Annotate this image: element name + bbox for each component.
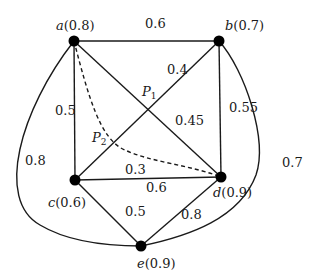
weight-cd-bottom: 0.6 — [146, 180, 167, 195]
node-b — [214, 36, 225, 47]
node-label-e: e(0.9) — [137, 256, 176, 271]
weight-ac: 0.5 — [55, 103, 76, 118]
weight-ae-curve: 0.8 — [25, 153, 46, 168]
edge-a-e-curve — [17, 41, 141, 246]
weighted-graph-diagram: a(0.8) b(0.7) c(0.6) d(0.9) e(0.9) 0.6 0… — [0, 0, 310, 276]
weight-ce: 0.5 — [125, 204, 146, 219]
node-label-c: c(0.6) — [48, 195, 86, 210]
weight-ab: 0.6 — [145, 16, 166, 31]
node-e — [136, 241, 147, 252]
node-d — [216, 172, 227, 183]
node-a — [69, 36, 80, 47]
node-label-a: a(0.8) — [56, 18, 95, 33]
node-label-b: b(0.7) — [225, 18, 264, 33]
weight-ad: 0.45 — [175, 113, 204, 128]
weight-cd-top: 0.3 — [125, 162, 146, 177]
node-label-d: d(0.9) — [213, 185, 252, 200]
point-label-p2: P2 — [91, 130, 106, 147]
edge-b-d — [219, 41, 221, 177]
edge-a-d — [74, 41, 221, 177]
weight-bd: 0.55 — [229, 100, 258, 115]
point-label-p1: P1 — [141, 84, 156, 101]
weight-de: 0.8 — [181, 207, 202, 222]
node-c — [70, 175, 81, 186]
weight-be-curve: 0.7 — [282, 155, 303, 170]
weight-bc: 0.4 — [167, 62, 188, 77]
